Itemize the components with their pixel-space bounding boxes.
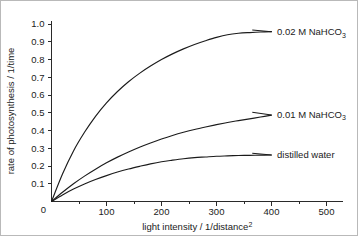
- series-label-0-01-m-nahco3: 0.01 M NaHCO3: [277, 109, 346, 121]
- y-tick-label-0.6: 0.6: [31, 89, 44, 100]
- series-leader-lines: [252, 30, 271, 155]
- series-labels: 0.02 M NaHCO30.01 M NaHCO3distilled wate…: [277, 26, 346, 160]
- chart-plot-area: 0100200300400500 0.10.20.30.40.50.60.70.…: [1, 1, 358, 236]
- y-tick-label-0.2: 0.2: [31, 160, 44, 171]
- y-tick-labels: 0.10.20.30.40.50.60.70.80.91.0: [31, 18, 44, 189]
- y-tick-label-0.4: 0.4: [31, 125, 44, 136]
- leader-0.01M: [252, 112, 271, 115]
- x-tick-labels: 0100200300400500: [41, 204, 335, 217]
- y-tick-label-0.3: 0.3: [31, 143, 44, 154]
- x-tick-label-300: 300: [209, 206, 225, 217]
- x-tick-label-200: 200: [154, 206, 170, 217]
- y-major-ticks: [48, 24, 52, 184]
- y-tick-label-0.1: 0.1: [31, 178, 44, 189]
- y-tick-label-0.8: 0.8: [31, 54, 44, 65]
- x-tick-label-500: 500: [319, 206, 335, 217]
- series-label-distilled-water: distilled water: [277, 149, 335, 160]
- x-axis-title: light intensity / 1/distance2: [142, 221, 252, 232]
- series-label-0-02-m-nahco3: 0.02 M NaHCO3: [277, 26, 346, 38]
- y-tick-label-0.7: 0.7: [31, 72, 44, 83]
- y-tick-label-0.9: 0.9: [31, 36, 44, 47]
- data-series-curves: [52, 32, 272, 202]
- chart-figure: 0100200300400500 0.10.20.30.40.50.60.70.…: [0, 0, 358, 236]
- curve-distilled-water: [52, 155, 272, 201]
- x-tick-label-400: 400: [264, 206, 280, 217]
- x-tick-label-100: 100: [99, 206, 115, 217]
- y-tick-label-0.5: 0.5: [31, 107, 44, 118]
- y-axis-title: rate of photosynthesis / 1/time: [5, 48, 16, 175]
- x-tick-label-0: 0: [41, 204, 46, 215]
- curve-0-01-m-nahco3: [52, 115, 272, 201]
- y-tick-label-1.0: 1.0: [31, 18, 44, 29]
